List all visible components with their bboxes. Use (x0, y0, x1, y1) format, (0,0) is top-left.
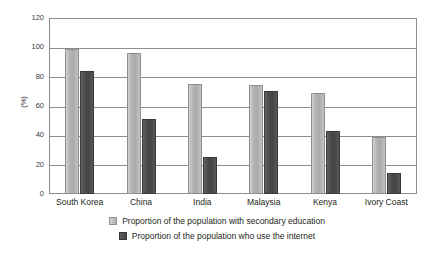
legend-swatch-dark-icon (119, 232, 127, 240)
y-tick-label: 20 (4, 161, 44, 169)
gridline (50, 136, 416, 137)
x-tick-label: Kenya (294, 196, 355, 208)
legend-item-secondary-education: Proportion of the population with second… (0, 213, 434, 228)
legend-item-internet-use: Proportion of the population who use the… (0, 228, 434, 243)
chart-legend: Proportion of the population with second… (0, 213, 434, 243)
y-tick-label: 40 (4, 131, 44, 139)
x-tick-label: China (110, 196, 171, 208)
gridline (50, 77, 416, 78)
legend-swatch-light-icon (109, 217, 117, 225)
plot-area (49, 18, 417, 194)
gridline (50, 165, 416, 166)
legend-label-secondary-education: Proportion of the population with second… (122, 216, 325, 226)
y-tick-label: 60 (4, 102, 44, 110)
y-tick-label: 0 (4, 190, 44, 198)
legend-label-internet-use: Proportion of the population who use the… (132, 231, 315, 241)
y-tick-label: 120 (4, 14, 44, 22)
x-tick-label: Ivory Coast (356, 196, 417, 208)
y-tick-label: 80 (4, 73, 44, 81)
y-tick-label: 100 (4, 43, 44, 51)
x-axis-labels: South KoreaChinaIndiaMalaysiaKenyaIvory … (49, 196, 417, 210)
bar-chart: (%) 020406080100120 South KoreaChinaIndi… (0, 0, 434, 263)
x-tick-label: South Korea (49, 196, 110, 208)
gridline (50, 48, 416, 49)
x-tick-label: Malaysia (233, 196, 294, 208)
x-tick-label: India (172, 196, 233, 208)
gridline (50, 107, 416, 108)
